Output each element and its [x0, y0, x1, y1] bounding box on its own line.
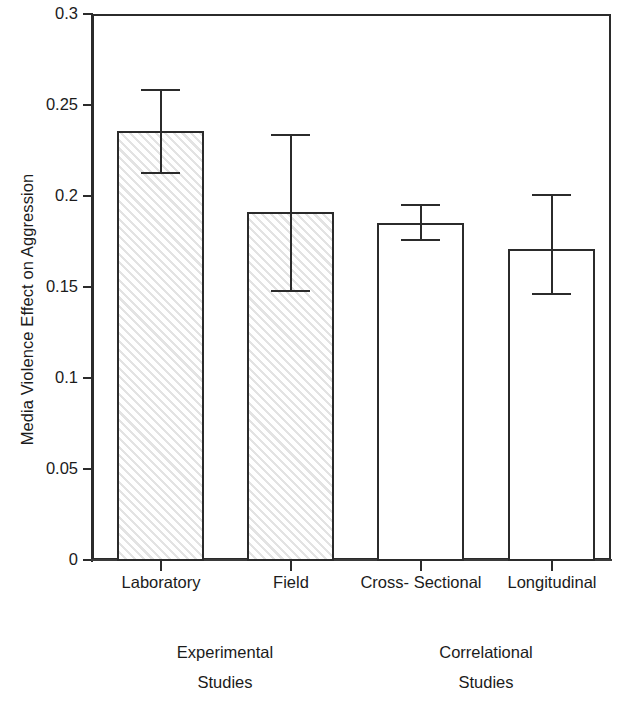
bar-chart-figure: Media Violence Effect on Aggression 0.3 …: [0, 0, 619, 704]
error-bar-cap-lower-field: [271, 290, 310, 292]
error-bar-stem-cross-sectional: [420, 204, 422, 241]
x-axis-label-field-line1: Field: [273, 573, 309, 591]
y-tick-label-0: 0: [4, 550, 78, 569]
error-bar-stem-field: [290, 134, 292, 292]
group-label-correlational-studies: Correlational Studies: [406, 637, 566, 697]
bar-longitudinal: [508, 249, 595, 561]
bar-laboratory: [117, 131, 204, 561]
x-tick-mark-laboratory: [160, 561, 162, 571]
x-axis-label-laboratory-line1: Laboratory: [122, 573, 201, 591]
y-tick-label-0.2: 0.2: [4, 186, 78, 205]
error-bar-cap-upper-field: [271, 134, 310, 136]
group-label-experimental-line2: Studies: [145, 667, 305, 697]
group-label-experimental-studies: Experimental Studies: [145, 637, 305, 697]
x-tick-mark-cross-sectional: [420, 561, 422, 571]
error-bar-stem-longitudinal: [551, 194, 553, 295]
y-tick-label-0.3: 0.3: [4, 4, 78, 23]
y-tick-label-0.15: 0.15: [4, 277, 78, 296]
x-axis-label-longitudinal-line1: Longitudinal: [508, 573, 597, 591]
x-axis-label-cross-sectional-line1: Cross-: [360, 573, 409, 591]
bar-cross-sectional: [377, 223, 464, 561]
y-tick-label-0.05: 0.05: [4, 459, 78, 478]
x-axis-label-longitudinal: Longitudinal: [472, 572, 619, 593]
error-bar-cap-upper-laboratory: [141, 89, 180, 91]
y-axis-line: [91, 13, 93, 562]
error-bar-cap-lower-cross-sectional: [401, 239, 440, 241]
y-axis-tick-labels: 0.3 0.25 0.2 0.15 0.1 0.05 0: [0, 0, 78, 704]
y-tick-label-0.1: 0.1: [4, 368, 78, 387]
group-label-correlational-line2: Studies: [406, 667, 566, 697]
error-bar-cap-lower-laboratory: [141, 172, 180, 174]
x-tick-mark-longitudinal: [551, 561, 553, 571]
y-tick-label-0.25: 0.25: [4, 95, 78, 114]
group-label-experimental-line1: Experimental: [145, 637, 305, 667]
error-bar-stem-laboratory: [160, 89, 162, 174]
error-bar-cap-upper-cross-sectional: [401, 204, 440, 206]
error-bar-cap-upper-longitudinal: [532, 194, 571, 196]
error-bar-cap-lower-longitudinal: [532, 293, 571, 295]
group-label-correlational-line1: Correlational: [406, 637, 566, 667]
x-tick-mark-field: [290, 561, 292, 571]
